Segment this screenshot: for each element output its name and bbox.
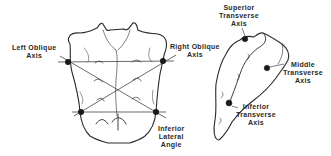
inferior-lateral-angle-label: Inferior Lateral Angle <box>158 125 185 149</box>
inferior-transverse-axis-label: Inferior Transverse Axis <box>236 103 276 127</box>
right-oblique-axis-line <box>74 55 176 116</box>
left-oblique-axis-label: Left Oblique Axis <box>12 44 56 60</box>
inferior-lateral-angle-point <box>153 109 159 115</box>
inferior-left-point <box>78 109 84 115</box>
superior-horizontal-line <box>58 61 174 62</box>
posterior-sacrum-outline <box>68 23 166 143</box>
inferior-transverse-point <box>226 100 232 106</box>
middle-transverse-point <box>264 65 270 71</box>
left-oblique-point <box>65 59 71 65</box>
right-oblique-point <box>160 58 166 64</box>
posterior-sacrum <box>68 23 166 143</box>
right-oblique-axis-label: Right Oblique Axis <box>170 43 220 59</box>
superior-transverse-point <box>242 36 248 42</box>
superior-transverse-axis-label: Superior Transverse Axis <box>219 4 259 28</box>
middle-transverse-axis-label: Middle Transverse Axis <box>283 61 323 85</box>
